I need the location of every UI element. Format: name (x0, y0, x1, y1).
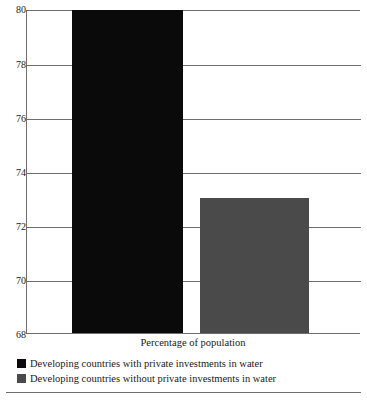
legend-swatch-black-icon (17, 359, 26, 368)
bar-chart-figure: 80 78 76 74 72 70 68 Percentage of popul… (0, 0, 367, 401)
y-tick-label-80: 80 (4, 5, 26, 15)
legend-label-without-private-investments: Developing countries without private inv… (30, 373, 276, 385)
bar-without-private-investments (200, 198, 309, 333)
legend-item-with-private-investments: Developing countries with private invest… (17, 356, 357, 371)
y-tick-label-76: 76 (4, 114, 26, 124)
bottom-divider (6, 392, 361, 393)
legend-label-with-private-investments: Developing countries with private invest… (30, 358, 263, 370)
y-tick-label-72: 72 (4, 222, 26, 232)
chart-legend: Developing countries with private invest… (17, 356, 357, 386)
legend-item-without-private-investments: Developing countries without private inv… (17, 371, 357, 386)
x-axis-title: Percentage of population (26, 336, 360, 349)
y-tick-label-70: 70 (4, 276, 26, 286)
bar-with-private-investments (72, 10, 183, 333)
y-tick-label-78: 78 (4, 60, 26, 70)
y-tick-label-74: 74 (4, 168, 26, 178)
legend-swatch-gray-icon (17, 374, 26, 383)
plot-area (26, 10, 360, 334)
y-tick-label-68: 68 (4, 330, 26, 340)
